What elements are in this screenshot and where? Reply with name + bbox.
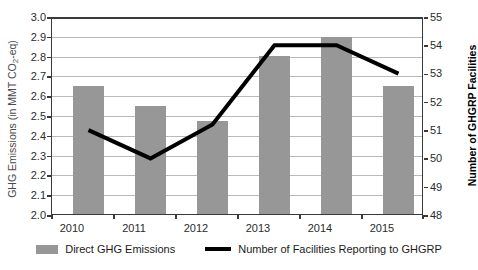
- legend-bar-swatch-icon: [36, 245, 58, 254]
- right-tickmark: [424, 74, 428, 76]
- left-ytick-2-1: 2.1: [16, 189, 46, 201]
- right-tickmark: [424, 130, 428, 132]
- xtick-2011: 2011: [106, 222, 162, 235]
- right-ytick-48: 48: [430, 209, 460, 221]
- right-axis-title: Number of GHGRP Facilities: [467, 16, 478, 216]
- x-tickmark: [113, 215, 115, 219]
- left-ytick-2-0: 2.0: [16, 209, 46, 221]
- left-ytick-2-3: 2.3: [16, 150, 46, 162]
- facilities-line-series: [52, 17, 424, 215]
- xtick-2013: 2013: [230, 222, 286, 235]
- legend-label-direct-ghg-emissions: Direct GHG Emissions: [65, 243, 175, 255]
- x-tickmark: [361, 215, 363, 219]
- right-ytick-55: 55: [430, 11, 460, 23]
- x-tickmark: [51, 215, 53, 219]
- chart-legend: Direct GHG Emissions Number of Facilitie…: [0, 243, 478, 255]
- left-ytick-2-2: 2.2: [16, 169, 46, 181]
- xtick-2010: 2010: [44, 222, 100, 235]
- left-ytick-2-8: 2.8: [16, 51, 46, 63]
- right-tickmark: [424, 215, 428, 217]
- left-ytick-2-6: 2.6: [16, 90, 46, 102]
- facilities-line-path: [89, 45, 399, 158]
- xtick-2015: 2015: [354, 222, 410, 235]
- right-tickmark: [424, 187, 428, 189]
- ghg-emissions-combo-chart: GHG Emissions (in MMT CO2-eq) Number of …: [0, 0, 478, 270]
- right-ytick-54: 54: [430, 39, 460, 51]
- right-tickmark: [424, 102, 428, 104]
- x-tickmark: [422, 215, 424, 219]
- legend-label-facilities-reporting: Number of Facilities Reporting to GHGRP: [238, 243, 442, 255]
- left-ytick-2-9: 2.9: [16, 31, 46, 43]
- left-ytick-2-7: 2.7: [16, 70, 46, 82]
- left-ytick-3-0: 3.0: [16, 11, 46, 23]
- plot-area: [51, 17, 423, 215]
- right-ytick-50: 50: [430, 152, 460, 164]
- right-tickmark: [424, 17, 428, 19]
- right-ytick-53: 53: [430, 67, 460, 79]
- x-tickmark: [299, 215, 301, 219]
- left-ytick-2-4: 2.4: [16, 130, 46, 142]
- legend-line-swatch-icon: [205, 247, 231, 251]
- legend-item-direct-ghg-emissions: Direct GHG Emissions: [36, 243, 175, 255]
- xtick-2012: 2012: [168, 222, 224, 235]
- right-ytick-51: 51: [430, 124, 460, 136]
- right-ytick-52: 52: [430, 96, 460, 108]
- right-tickmark: [424, 45, 428, 47]
- x-tickmark: [237, 215, 239, 219]
- legend-item-facilities-reporting: Number of Facilities Reporting to GHGRP: [205, 243, 442, 255]
- left-ytick-2-5: 2.5: [16, 110, 46, 122]
- right-ytick-49: 49: [430, 181, 460, 193]
- x-tickmark: [175, 215, 177, 219]
- right-tickmark: [424, 158, 428, 160]
- xtick-2014: 2014: [292, 222, 348, 235]
